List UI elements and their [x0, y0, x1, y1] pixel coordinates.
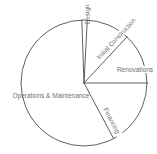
pie-chart-figure: Renovations Initial Construction Design … [0, 0, 157, 154]
slice-label-operations-maintenance: Operations & Maintenance [11, 92, 91, 99]
slice-label-renovations: Renovations [115, 66, 155, 73]
pie-outline-group [21, 20, 147, 146]
slice-boundary [84, 20, 87, 83]
slice-boundary [82, 20, 84, 83]
slice-label-design: Design [83, 3, 91, 25]
